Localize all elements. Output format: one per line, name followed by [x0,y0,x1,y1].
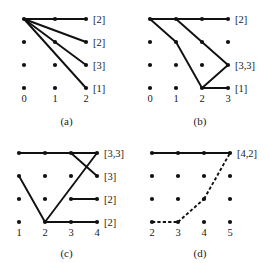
x-tick-label: 2 [199,93,204,104]
edge-fan-3 [24,19,86,88]
bracket-label: [2] [104,217,116,228]
bracket-label: [3,3] [104,148,124,159]
x-tick-label: 3 [68,227,73,238]
bracket-label: [4,2] [237,148,257,159]
x-tick-label: 2 [42,227,47,238]
edge-cross-long-left [45,153,97,222]
panel-d-tick-labels: 2 3 4 5 [149,227,232,238]
edge-left-descent [19,176,45,222]
panel-b-edges [150,19,228,88]
panel-d: [4,2] 2 3 4 5 (d) [133,131,267,263]
panel-a-edges [24,19,86,88]
x-tick-label: 5 [227,227,232,238]
bracket-label: [3] [104,171,116,182]
x-tick-label: 4 [94,227,100,238]
panel-caption-c: (c) [0,247,133,259]
x-tick-label: 3 [175,227,180,238]
x-tick-label: 2 [83,93,88,104]
panel-d-nodes [150,151,232,224]
panel-a-bracket-labels: [2] [2] [3] [1] [93,14,105,94]
panel-caption-b: (b) [133,115,267,127]
panel-caption-d: (d) [133,247,267,259]
panel-b: [2] [3,3] [1] 0 1 2 3 (b) [133,0,267,131]
panel-a-tick-labels: 0 1 2 [21,93,88,104]
bracket-label: [2] [235,14,247,25]
edge-dashed-rise-2 [204,153,230,199]
bracket-label: [2] [93,37,105,48]
x-tick-label: 1 [16,227,21,238]
panel-b-plot: [2] [3,3] [1] 0 1 2 3 [133,0,267,131]
panel-c-edges [19,153,97,222]
panel-c-plot: [3,3] [3] [2] [2] 1 2 3 4 [0,131,133,263]
panel-c-bracket-labels: [3,3] [3] [2] [2] [104,148,124,228]
panel-caption-a: (a) [0,115,133,127]
x-tick-label: 0 [21,93,26,104]
edge-cross-down-right [71,153,97,176]
panel-d-plot: [4,2] 2 3 4 5 [133,131,267,263]
panel-d-edges [152,153,230,222]
bracket-label: [3,3] [235,60,255,71]
bracket-label: [1] [235,83,247,94]
panel-grid: [2] [2] [3] [1] 0 1 2 (a) [0,0,267,263]
bracket-label: [2] [93,14,105,25]
figure-root: [2] [2] [3] [1] 0 1 2 (a) [0,0,267,263]
panel-a: [2] [2] [3] [1] 0 1 2 (a) [0,0,133,131]
edge-right-diagonal [202,65,228,88]
bracket-label: [1] [93,83,105,94]
panel-c-tick-labels: 1 2 3 4 [16,227,100,238]
panel-d-bracket-labels: [4,2] [237,148,257,159]
panel-a-plot: [2] [2] [3] [1] 0 1 2 [0,0,133,131]
bracket-label: [2] [104,194,116,205]
panel-c-nodes [17,151,99,224]
x-tick-label: 3 [225,93,230,104]
x-tick-label: 1 [173,93,178,104]
panel-b-tick-labels: 0 1 2 3 [147,93,230,104]
x-tick-label: 0 [147,93,152,104]
edge-dashed-rise-1 [178,199,204,222]
panel-b-bracket-labels: [2] [3,3] [1] [235,14,255,94]
x-tick-label: 2 [149,227,154,238]
panel-c: [3,3] [3] [2] [2] 1 2 3 4 (c) [0,131,133,263]
edge-left-chain [150,19,202,88]
x-tick-label: 1 [52,93,57,104]
x-tick-label: 4 [201,227,207,238]
bracket-label: [3] [93,60,105,71]
